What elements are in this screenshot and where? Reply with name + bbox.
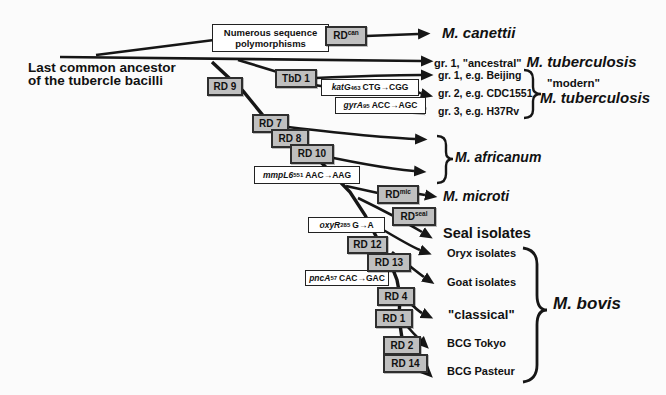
taxon-africanum: M. africanum bbox=[455, 149, 541, 165]
branch-canettii-arrow bbox=[366, 34, 418, 36]
mmpl6-mutation-box: mmpL6551AAC→AAG bbox=[254, 166, 360, 184]
modern-group-species: M. tuberculosis bbox=[540, 89, 650, 106]
rd-can-box: RDcan bbox=[325, 26, 367, 46]
taxon-canettii: M. canettii bbox=[442, 24, 515, 41]
taxon-seal-isolates: Seal isolates bbox=[443, 225, 531, 241]
rd-seal-box: RDseal bbox=[392, 207, 436, 226]
taxon-bcg-pasteur: BCG Pasteur bbox=[447, 365, 515, 377]
gyra-change: ACC→AGC bbox=[372, 101, 418, 110]
taxon-classical: "classical" bbox=[448, 307, 515, 322]
phylogenetic-tree-figure: Last common ancestor of the tubercle bac… bbox=[0, 0, 666, 395]
rd14-box: RD 14 bbox=[383, 354, 428, 373]
rd13-box: RD 13 bbox=[367, 253, 411, 272]
taxon-oryx-isolates: Oryx isolates bbox=[447, 247, 516, 259]
rd-can-label: RDcan bbox=[333, 31, 359, 41]
rd-mic-box: RDmic bbox=[377, 185, 419, 204]
taxon-ancestral-species: M. tuberculosis bbox=[526, 53, 636, 70]
polymorphisms-box: Numerous sequence polymorphisms bbox=[212, 24, 329, 52]
branch-microti-arrow bbox=[419, 194, 425, 195]
taxon-gr2-cdc1551: gr. 2, e.g. CDC1551 bbox=[438, 87, 533, 99]
taxon-bovis: M. bovis bbox=[553, 294, 621, 314]
ancestor-label: Last common ancestor of the tubercle bac… bbox=[28, 61, 176, 87]
taxon-ancestral-prefix: gr. 1, "ancestral" bbox=[434, 57, 521, 69]
taxon-goat-isolates: Goat isolates bbox=[447, 276, 516, 288]
pnca-gene: pncA bbox=[309, 274, 330, 283]
branch-beijing-arrow bbox=[316, 75, 421, 78]
oxyr-gene: oxyR bbox=[319, 221, 340, 230]
rd12-box: RD 12 bbox=[347, 236, 388, 254]
taxon-bcg-tokyo: BCG Tokyo bbox=[447, 337, 506, 349]
rd10-box: RD 10 bbox=[290, 144, 334, 164]
oxyr-mutation-box: oxyR285G→A bbox=[308, 217, 385, 233]
taxon-gr3-h37rv: gr. 3, e.g. H37Rv bbox=[438, 105, 519, 117]
bracket-bovis bbox=[523, 248, 547, 382]
rd-seal-label: RDseal bbox=[400, 212, 427, 222]
pnca-change: CAC→GAC bbox=[339, 274, 385, 283]
taxon-gr1-beijing: gr. 1, e.g. Beijing bbox=[438, 69, 521, 81]
mmpl6-change: AAC→AAG bbox=[305, 171, 351, 180]
taxon-ancestral: gr. 1, "ancestral" M. tuberculosis bbox=[434, 53, 637, 70]
bracket-africanum bbox=[437, 136, 453, 183]
rd4-box: RD 4 bbox=[377, 287, 415, 306]
ancestor-label-line2: of the tubercle bacilli bbox=[28, 74, 176, 87]
modern-group-label: "modern" bbox=[547, 77, 600, 89]
rd-mic-label: RDmic bbox=[385, 190, 411, 200]
rd2-box: RD 2 bbox=[383, 336, 421, 355]
pnca-mutation-box: pncA57CAC→GAC bbox=[305, 270, 389, 286]
polymorphisms-line1: Numerous sequence bbox=[224, 27, 317, 38]
oxyr-change: G→A bbox=[352, 221, 373, 230]
gyra-gene: gyrA bbox=[344, 101, 363, 110]
taxon-microti: M. microti bbox=[443, 188, 509, 204]
rd9-box: RD 9 bbox=[207, 77, 243, 96]
mmpl6-gene: mmpL6 bbox=[263, 171, 293, 180]
gyra-mutation-box: gyrA95ACC→AGC bbox=[335, 97, 426, 114]
katg-change: CTG→CGG bbox=[363, 83, 409, 92]
branch-canettii-left bbox=[96, 40, 214, 55]
katg-mutation-box: katG463CTG→CGG bbox=[321, 79, 419, 96]
tbd1-box: TbD 1 bbox=[275, 69, 317, 88]
polymorphisms-line2: polymorphisms bbox=[235, 38, 306, 49]
katg-gene: katG bbox=[332, 83, 351, 92]
rd1-box: RD 1 bbox=[375, 309, 413, 328]
